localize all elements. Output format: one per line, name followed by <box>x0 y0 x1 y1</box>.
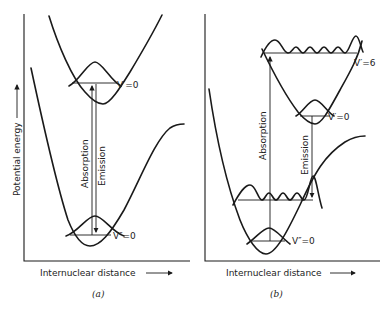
diagram-canvas: Potential energy V′=0 V″=0 Absorption Em… <box>0 0 386 311</box>
x-axis-label: Internuclear distance <box>226 268 322 278</box>
svg-text:Absorption: Absorption <box>258 111 268 160</box>
absorption-label: Absorption <box>80 139 90 188</box>
lower-potential-curve <box>31 68 184 246</box>
panel-b: V′=6 V′=0 V″=0 Absorption Emission Inter… <box>205 14 380 299</box>
caption-a: (a) <box>92 289 105 299</box>
svg-text:Emission: Emission <box>300 135 310 175</box>
lower-level-label: V″=0 <box>113 231 136 241</box>
upper-level-label: V′=0 <box>117 80 139 90</box>
y-axis-label: Potential energy <box>12 122 22 196</box>
lower-high-wavefunction <box>233 176 322 208</box>
svg-text:Absorption: Absorption <box>80 139 90 188</box>
panel-a: Potential energy V′=0 V″=0 Absorption Em… <box>12 14 190 299</box>
upper-v6-wavefunction <box>261 36 363 57</box>
upper-v0-level-label: V′=0 <box>328 112 350 122</box>
svg-text:Emission: Emission <box>97 146 107 186</box>
emission-label: Emission <box>97 146 107 186</box>
caption-b: (b) <box>270 289 283 299</box>
upper-potential-curve <box>49 15 162 104</box>
upper-v6-level-label: V′=6 <box>354 58 376 68</box>
svg-text:Potential energy: Potential energy <box>12 122 22 196</box>
x-axis-label: Internuclear distance <box>40 268 136 278</box>
emission-label: Emission <box>300 135 310 175</box>
absorption-label: Absorption <box>258 111 268 160</box>
lower-v0-level-label: V″=0 <box>292 236 315 246</box>
